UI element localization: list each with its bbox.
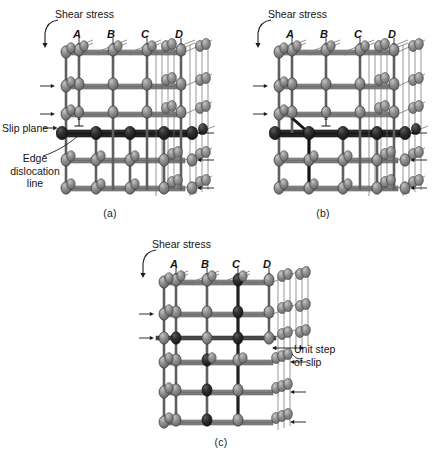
slip-plane-label: Slip plane <box>2 122 48 134</box>
shear-stress-label-c: Shear stress <box>152 238 211 250</box>
column-label-b-A: A <box>286 28 294 40</box>
panel-b: Shear stress A B C D <box>213 0 433 230</box>
shear-arrows-left-a <box>40 84 55 116</box>
panel-caption-c: (c) <box>106 436 336 448</box>
edge-dislocation-line-label: Edge dislocation line <box>4 152 66 190</box>
shear-stress-label-a: Shear stress <box>55 8 114 20</box>
column-label-c-C: C <box>232 258 240 270</box>
column-label-a-D: D <box>175 28 183 40</box>
dislocation-symbol-b <box>322 119 331 126</box>
panel-caption-a: (a) <box>0 207 220 219</box>
panel-caption-b: (b) <box>213 207 433 219</box>
column-label-c-A: A <box>170 258 178 270</box>
column-label-c-D: D <box>263 258 271 270</box>
shear-arrows-left-c <box>139 312 154 340</box>
column-label-a-C: C <box>141 28 149 40</box>
figure-root: Shear stress A B C D Slip plane Edge dis… <box>0 0 433 459</box>
dislocation-symbol-a <box>75 119 84 126</box>
shear-stress-label-b: Shear stress <box>268 8 327 20</box>
atom-grid-c <box>159 267 310 429</box>
column-label-b-C: C <box>354 28 362 40</box>
column-label-a-B: B <box>107 28 115 40</box>
column-label-b-B: B <box>320 28 328 40</box>
panel-c: Shear stress A B C D Unit step of slip <box>106 230 336 459</box>
panel-a: Shear stress A B C D Slip plane Edge dis… <box>0 0 220 230</box>
column-label-a-A: A <box>73 28 81 40</box>
unit-step-of-slip-label: Unit step of slip <box>294 343 335 368</box>
column-label-b-D: D <box>388 28 396 40</box>
shear-arrows-left-b <box>253 84 268 116</box>
column-label-c-B: B <box>201 258 209 270</box>
